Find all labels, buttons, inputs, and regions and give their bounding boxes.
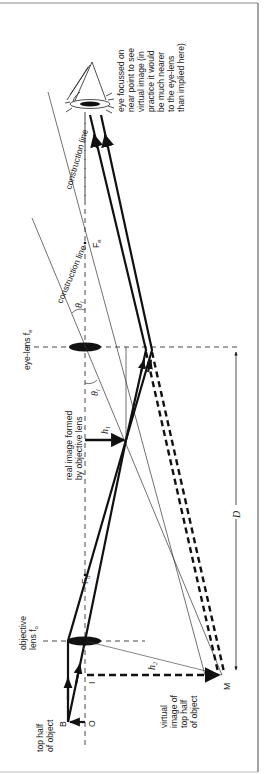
ray-eye-1-arrow [94,135,97,148]
point-B-label: B [58,721,68,727]
microscope-diagram: eye focussed on near point to see virtua… [0,0,264,774]
eye-lens-sub: e [27,329,33,333]
focal-eye-label: Fe [91,239,102,248]
point-B: B [58,721,68,727]
eye-note-line-3: virtual image (in [136,51,146,112]
svg-text:lens fo: lens fo [28,625,39,650]
focal-eye-sub: e [96,239,102,243]
construction-line-label-upper: construction line [63,128,90,191]
eye-drawing [65,62,114,113]
eye-note-line-1: eye focussed on [116,49,126,112]
construction-line-label-lower: construction line [55,244,89,305]
eye-lens-label: eye-lens fe [22,329,33,370]
point-I-label: I [87,682,97,684]
virtual-image-line-2: image of [169,694,179,728]
real-image-label: real image formed by objective lens [64,411,84,480]
real-image-line-2: by objective lens [74,416,84,480]
virtual-image-line-3: top half [179,699,189,728]
h1-label: h1 [99,426,111,434]
h2-label: h2 [146,662,158,670]
h1-sub: 1 [105,426,111,429]
theta-arc-upper [72,309,85,313]
eye-lens-text: eye-lens f [22,332,32,370]
eye-lens [69,343,101,352]
objective-lens-line-1: objective [18,616,28,650]
eye-note-line-2: near point to see [126,48,136,112]
virtual-image-label: virtual image of top half of object [159,694,199,728]
point-M-label: M [222,683,232,690]
svg-text:eye-lens fe: eye-lens fe [22,329,33,370]
h2-sub: 2 [152,662,158,665]
svg-text:Fo: Fo [80,575,91,584]
top-half-line-1: top half [35,723,45,752]
virtual-image-line-4: of object [189,695,199,728]
eye-note-line-6: to the eye-lens [166,56,176,112]
point-M: M [222,683,232,690]
eye-note-line-7: than implied here) [176,43,186,112]
point-O: O [87,720,97,727]
theta-lower-label: θl [89,389,101,396]
distance-D: D [231,510,242,519]
virtual-ray-2 [152,352,224,672]
ray-eye-2-arrow [105,135,108,148]
diagram-frame: eye focussed on near point to see virtua… [0,0,264,774]
point-O-label: O [87,720,97,727]
top-half-line-2: of object [45,719,55,752]
eye-note-line-5: be much nearer [156,52,166,112]
svg-text:θl: θl [73,301,85,308]
virtual-image-line-1: virtual [159,705,169,728]
top-half-label: top half of object [35,719,55,752]
point-I: I [87,682,97,684]
ray-eye-2 [101,115,152,440]
theta-lower-sub: l [95,389,101,391]
theta-arc-lower [85,380,97,384]
eye-note-line-4: practice it would [146,50,156,112]
svg-text:Fe: Fe [91,239,102,248]
theta-upper-sub: l [79,301,85,303]
svg-text:h1: h1 [99,426,111,434]
svg-text:h2: h2 [146,662,158,670]
theta-upper-label: θl [73,301,85,308]
eye-note: eye focussed on near point to see virtua… [116,43,186,112]
virtual-ray-1 [146,352,218,672]
objective-lens-label: objective lens fo [18,616,39,650]
focal-point-eye [84,242,87,245]
focal-objective-label: Fo [80,575,91,584]
distance-D-label: D [231,510,242,519]
objective-lens-sub: o [33,625,39,629]
ray-central-arrow [76,664,80,684]
svg-text:θl: θl [89,389,101,396]
objective-lens-line-2: lens f [28,629,38,650]
real-image-line-1: real image formed [64,411,74,480]
